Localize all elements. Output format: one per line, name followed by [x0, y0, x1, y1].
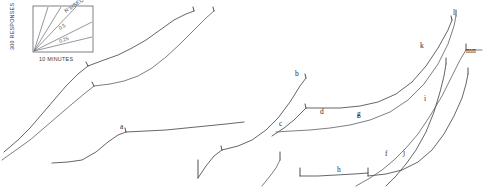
record-trace-5 — [272, 16, 452, 136]
record-trace-7 — [300, 68, 468, 176]
legend-x-axis-label: 10 MINUTES — [39, 56, 73, 62]
record-trace-6 — [276, 10, 456, 132]
curve-label-k: k — [420, 41, 424, 50]
curve-label-b: b — [295, 69, 299, 78]
curve-label-d: d — [320, 107, 324, 116]
curve-labels: a b c d e f g h i j k l m n — [120, 8, 476, 174]
record-trace-8 — [356, 44, 482, 186]
curve-label-g: g — [357, 109, 361, 118]
curve-label-h: h — [337, 165, 341, 174]
curve-label-f: f — [385, 149, 388, 158]
curve-label-j: j — [402, 148, 405, 157]
cumulative-record-figure: R's/SEC 0.5 0.25 300 RESPONSES 10 MINUTE… — [0, 0, 489, 188]
rate-calibration-key: R's/SEC 0.5 0.25 300 RESPONSES 10 MINUTE… — [9, 0, 93, 62]
figure-canvas: R's/SEC 0.5 0.25 300 RESPONSES 10 MINUTE… — [0, 0, 489, 188]
curve-label-c: c — [279, 119, 283, 128]
legend-y-axis-label: 300 RESPONSES — [9, 3, 15, 50]
curve-label-n: n — [472, 46, 476, 55]
curve-label-l: l — [453, 8, 455, 17]
curve-label-a: a — [120, 122, 124, 131]
record-trace-3 — [52, 122, 244, 163]
record-trace-4 — [198, 74, 306, 178]
record-trace-10 — [198, 152, 280, 186]
curve-label-i: i — [424, 94, 426, 103]
